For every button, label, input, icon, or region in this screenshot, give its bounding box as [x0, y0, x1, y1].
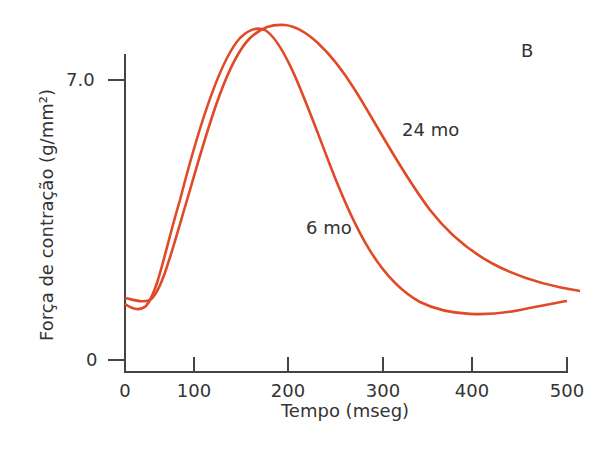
x-tick-label-200: 200: [271, 380, 305, 401]
x-axis-title: Tempo (mseg): [281, 400, 409, 421]
series-label-24mo: 24 mo: [402, 119, 459, 140]
panel-label: B: [521, 40, 533, 61]
series-label-6mo: 6 mo: [306, 217, 352, 238]
x-tick-label-400: 400: [455, 380, 489, 401]
x-tick-label-100: 100: [177, 380, 211, 401]
y-tick-label-0: 0: [86, 349, 97, 370]
x-tick-label-500: 500: [550, 380, 584, 401]
y-tick-label-7: 7.0: [66, 69, 95, 90]
x-tick-label-0: 0: [119, 380, 130, 401]
y-axis-title: Força de contração (g/mm²): [36, 89, 57, 341]
series-24mo-line: [125, 25, 580, 301]
series-6mo-line: [125, 29, 567, 315]
x-tick-label-300: 300: [366, 380, 400, 401]
